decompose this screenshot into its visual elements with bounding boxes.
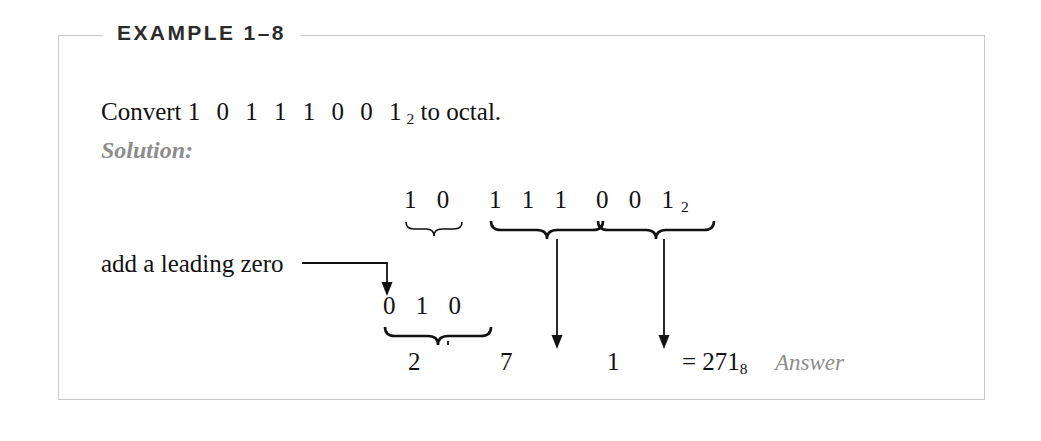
octal-digit-2: 7	[500, 348, 513, 376]
result-expression: = 2718	[682, 348, 748, 383]
octal-digit-3: 1	[607, 348, 620, 376]
binary-group-3: 0 0 12	[596, 186, 689, 221]
binary-group-1: 1 0	[404, 186, 456, 214]
conversion-diagram: 1 0 1 1 1 0 0 12 add a leading zero 0 1 …	[0, 0, 1041, 441]
arrow-group-2-head	[552, 335, 563, 349]
result-subscript: 8	[740, 360, 748, 377]
binary-group-3-subscript: 2	[681, 198, 689, 215]
brace-group-2	[491, 221, 603, 239]
leading-zero-annotation: add a leading zero	[101, 250, 284, 278]
padded-binary-group: 0 1 0	[383, 292, 468, 320]
brace-group-3	[598, 221, 714, 239]
arrow-group-3-head	[659, 335, 670, 349]
answer-label: Answer	[775, 349, 844, 377]
binary-group-3-digits: 0 0 1	[596, 186, 681, 213]
leading-zero-leader-line	[302, 263, 387, 286]
brace-group-1	[406, 222, 462, 236]
diagram-overlay	[0, 0, 1041, 441]
octal-digit-1: 2	[408, 348, 421, 376]
binary-group-2: 1 1 1	[489, 186, 574, 214]
result-value: = 271	[682, 348, 740, 375]
brace-padded-group	[385, 327, 491, 345]
